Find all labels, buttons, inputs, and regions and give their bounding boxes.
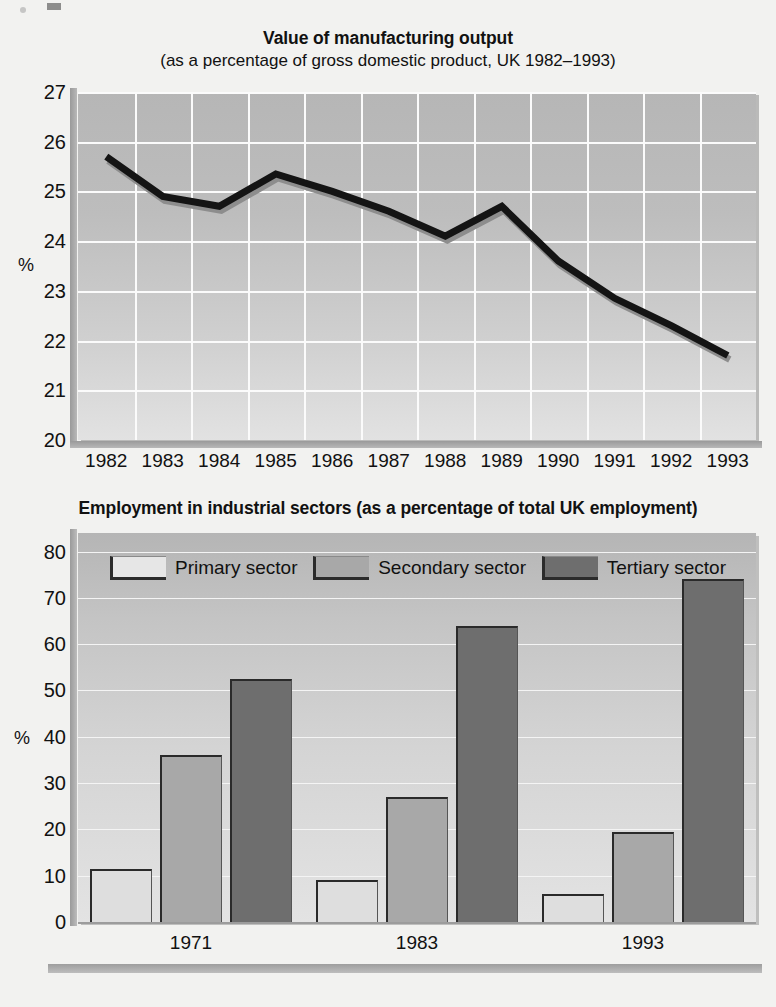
bar-plot-area: Primary sector Secondary sector Tertiary…	[78, 533, 756, 922]
y-tick-label: 27	[14, 81, 66, 104]
line-chart-subtitle: (as a percentage of gross domestic produ…	[0, 51, 776, 71]
bar-series-container	[78, 533, 756, 922]
figure-page: Value of manufacturing output (as a perc…	[0, 0, 776, 1007]
x-tick-label: 1985	[255, 450, 297, 472]
x-tick-label: 1990	[537, 450, 579, 472]
bar-y-axis	[70, 529, 77, 926]
bar-chart: Employment in industrial sectors (as a p…	[0, 470, 776, 1007]
bar-secondary-1993[interactable]	[612, 832, 674, 922]
line-y-axis-caption: %	[18, 255, 34, 276]
y-tick-label: 21	[14, 379, 66, 402]
x-tick-label: 1982	[85, 450, 127, 472]
gridline-h	[78, 922, 756, 924]
x-tick-label: 1993	[707, 450, 749, 472]
group-label: 1993	[622, 932, 664, 954]
line-plot-area	[78, 92, 756, 440]
x-tick-label: 1988	[424, 450, 466, 472]
bar-primary-1971[interactable]	[90, 869, 152, 922]
x-tick-label: 1992	[650, 450, 692, 472]
y-tick-label: 50	[10, 679, 66, 702]
y-tick-label: 80	[10, 540, 66, 563]
bar-tertiary-1983[interactable]	[456, 626, 518, 922]
y-tick-label: 70	[10, 586, 66, 609]
y-tick-label: 22	[14, 329, 66, 352]
x-tick-label: 1991	[594, 450, 636, 472]
x-tick-label: 1989	[481, 450, 523, 472]
bar-primary-1983[interactable]	[316, 880, 378, 922]
y-tick-label: 26	[14, 130, 66, 153]
line-chart: Value of manufacturing output (as a perc…	[0, 0, 776, 470]
y-tick-label: 20	[10, 818, 66, 841]
bar-chart-title: Employment in industrial sectors (as a p…	[0, 498, 776, 519]
line-chart-title: Value of manufacturing output	[0, 28, 776, 49]
group-label: 1971	[170, 932, 212, 954]
line-series-shadow	[108, 161, 730, 360]
y-tick-label: 23	[14, 279, 66, 302]
y-tick-label: 24	[14, 230, 66, 253]
bar-tertiary-1993[interactable]	[682, 579, 744, 922]
line-x-axis	[70, 441, 762, 448]
bar-x-axis	[48, 964, 762, 973]
bar-primary-1993[interactable]	[542, 894, 604, 922]
x-tick-label: 1984	[198, 450, 240, 472]
line-series-svg	[78, 92, 756, 440]
bar-y-axis-caption: %	[14, 728, 30, 749]
y-tick-label: 30	[10, 772, 66, 795]
y-tick-label: 60	[10, 633, 66, 656]
line-series-path	[106, 157, 728, 356]
y-tick-label: 25	[14, 180, 66, 203]
bar-secondary-1983[interactable]	[386, 797, 448, 922]
group-label: 1983	[396, 932, 438, 954]
y-tick-label: 10	[10, 864, 66, 887]
x-tick-label: 1987	[368, 450, 410, 472]
bar-tertiary-1971[interactable]	[230, 679, 292, 922]
x-tick-label: 1983	[142, 450, 184, 472]
x-tick-label: 1986	[311, 450, 353, 472]
y-tick-label: 20	[14, 429, 66, 452]
bar-secondary-1971[interactable]	[160, 755, 222, 922]
y-tick-label: 0	[10, 911, 66, 934]
line-y-axis	[70, 88, 77, 444]
